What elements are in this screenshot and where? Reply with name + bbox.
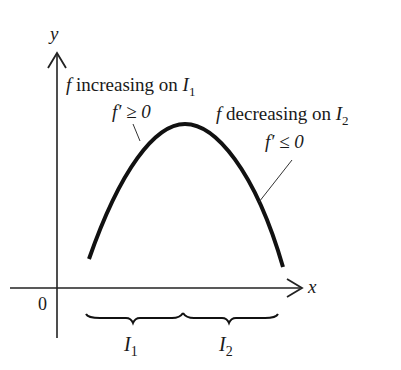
interval-label-1: I1 — [123, 333, 138, 359]
origin-label: 0 — [38, 294, 47, 314]
decreasing-annotation: f decreasing on I2 — [216, 103, 349, 128]
y-axis-label: y — [48, 23, 59, 44]
function-curve — [89, 124, 283, 267]
interval-brace-2 — [183, 313, 278, 323]
diagram-canvas: y x 0 f increasing on I1 f′ ≥ 0 f decrea… — [0, 0, 401, 370]
y-axis — [48, 53, 66, 338]
increasing-annotation: f increasing on I1 — [66, 74, 195, 99]
decreasing-leader-line — [259, 160, 292, 202]
x-axis-label: x — [307, 276, 317, 297]
decreasing-derivative-label: f′ ≤ 0 — [265, 131, 304, 152]
increasing-derivative-label: f′ ≥ 0 — [112, 101, 151, 122]
increasing-leader-line — [133, 124, 140, 141]
x-axis — [10, 279, 302, 297]
interval-label-2: I2 — [218, 333, 233, 359]
interval-brace-1 — [86, 313, 183, 323]
